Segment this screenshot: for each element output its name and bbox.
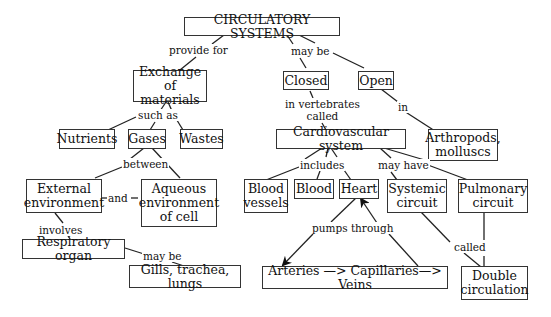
node-double-circulation: Double circulation	[461, 266, 528, 300]
link-involves: involves	[38, 224, 83, 236]
concept-map: CIRCULATORY SYSTEMS Exchange of material…	[0, 0, 551, 317]
node-external-environment: External environment	[26, 179, 102, 213]
node-heart: Heart	[339, 179, 379, 199]
node-pulmonary-circuit: Pulmonary circuit	[458, 179, 528, 213]
node-wastes: Wastes	[180, 129, 223, 149]
link-may-be-respiratory: may be	[142, 250, 182, 262]
node-nutrients: Nutrients	[59, 129, 115, 149]
node-arteries-capillaries-veins: Arteries —> Capillaries—> Veins	[262, 266, 448, 289]
link-in: in	[397, 101, 409, 113]
node-closed: Closed	[283, 71, 329, 90]
node-systemic-circuit: Systemic circuit	[387, 179, 447, 213]
node-gases: Gases	[128, 129, 166, 149]
node-blood-vessels: Blood vessels	[244, 179, 288, 213]
node-aqueous-environment: Aqueous environment of cell	[141, 179, 217, 227]
link-such-as: such as	[137, 109, 179, 121]
node-arthropods-molluscs: Arthropods, molluscs	[428, 129, 498, 161]
link-pumps-through: pumps through	[311, 222, 394, 234]
node-open: Open	[358, 71, 394, 90]
link-in-vertebrates-called: in vertebrates called	[284, 98, 361, 122]
link-and: and	[107, 192, 129, 204]
node-blood: Blood	[294, 179, 334, 199]
link-between: between	[122, 158, 169, 170]
link-called: called	[453, 241, 487, 253]
link-may-have: may have	[377, 159, 430, 171]
link-provide-for: provide for	[168, 44, 229, 56]
link-may-be: may be	[290, 45, 330, 57]
node-cardiovascular-system: Cardiovascular system	[276, 129, 406, 149]
node-respiratory-organ: Respiratory organ	[22, 239, 125, 259]
link-includes: includes	[299, 159, 345, 171]
node-circulatory-systems: CIRCULATORY SYSTEMS	[184, 17, 340, 36]
node-exchange-of-materials: Exchange of materials	[133, 70, 207, 102]
node-gills-trachea-lungs: Gills, trachea, lungs	[129, 265, 241, 288]
